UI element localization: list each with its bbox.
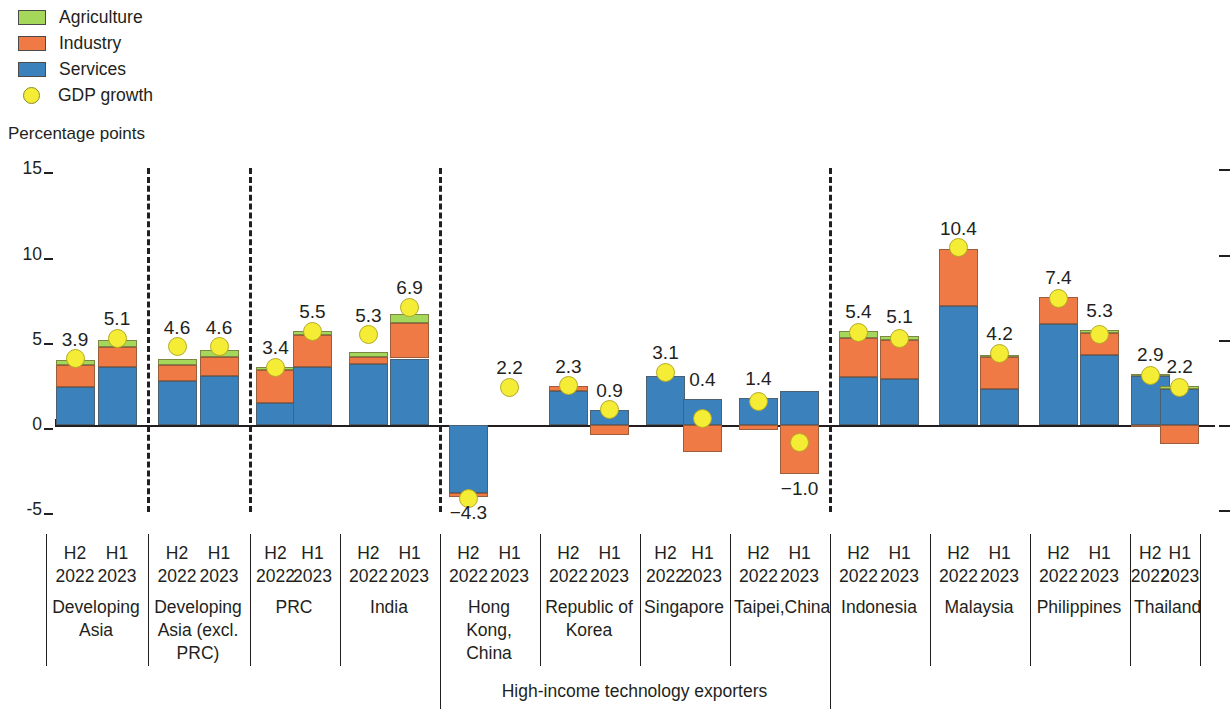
- gdp-growth-value-label: 7.4: [1023, 267, 1093, 289]
- x-axis-period-line: H1: [766, 542, 834, 565]
- x-axis-group-label: Hong Kong,China: [444, 596, 534, 665]
- gdp-growth-value-label: 6.9: [375, 277, 445, 299]
- gdp-growth-value-label: 3.4: [241, 337, 311, 359]
- bar-segment-services: [839, 377, 878, 425]
- bar-segment-industry: [739, 425, 778, 430]
- gdp-growth-value-label: 1.4: [723, 368, 793, 390]
- bar-segment-industry: [683, 425, 722, 452]
- x-axis-period-label: H12023: [83, 542, 151, 588]
- y-axis-tick-label: 15: [2, 158, 42, 179]
- x-axis-group-label-line: Philippines: [1034, 596, 1124, 619]
- bar-segment-services: [449, 425, 488, 493]
- x-axis-group-label: Indonesia: [834, 596, 924, 619]
- x-axis-group-label-line: Malaysia: [934, 596, 1024, 619]
- x-axis-group-label-line: Singapore: [644, 596, 724, 619]
- y-axis-tick-mark-right: [1219, 169, 1230, 171]
- x-axis-period-label: H12023: [866, 542, 934, 588]
- gdp-growth-marker: [790, 433, 809, 452]
- x-axis-period-line: 2023: [1146, 565, 1214, 588]
- bar-segment-services: [390, 359, 429, 425]
- bar-segment-agriculture: [349, 352, 388, 357]
- x-axis-group-label-line: Developing: [50, 596, 142, 619]
- bar-segment-industry: [158, 365, 197, 380]
- x-axis-group-label: DevelopingAsia: [50, 596, 142, 642]
- x-axis-period-line: 2023: [476, 565, 544, 588]
- y-axis-tick-mark: [44, 428, 53, 430]
- bar-segment-industry: [390, 323, 429, 359]
- x-axis-group-label-line: Asia (excl.: [152, 619, 244, 642]
- gdp-growth-marker: [693, 409, 712, 428]
- bar-segment-industry: [56, 365, 95, 387]
- gdp-growth-marker: [949, 238, 968, 257]
- y-axis-tick-mark-right: [1219, 510, 1230, 512]
- x-axis-group-label: Republic ofKorea: [544, 596, 634, 642]
- gdp-growth-value-label: −1.0: [765, 478, 835, 500]
- x-axis-period-label: H12023: [966, 542, 1034, 588]
- x-axis-period-line: H1: [83, 542, 151, 565]
- x-axis-period-line: 2023: [866, 565, 934, 588]
- x-axis-period-line: 2023: [766, 565, 834, 588]
- gdp-growth-value-label: 10.4: [923, 218, 993, 240]
- gdp-growth-value-label: 4.6: [184, 317, 254, 339]
- y-axis-tick-mark-right: [1219, 425, 1230, 427]
- bar-segment-services: [98, 367, 137, 425]
- x-axis-period-line: H1: [476, 542, 544, 565]
- bar-segment-agriculture: [158, 359, 197, 366]
- bar-segment-services: [56, 387, 95, 425]
- group-divider-dashed: [147, 168, 150, 512]
- bar-segment-services: [293, 367, 332, 425]
- x-axis-group-label: PRC: [254, 596, 334, 619]
- x-axis-period-label: H12023: [1146, 542, 1214, 588]
- x-axis-supergroup-label: High-income technology exporters: [440, 681, 829, 702]
- gdp-growth-marker: [168, 337, 187, 356]
- x-axis-period-line: H1: [376, 542, 444, 565]
- x-axis-group-label: India: [344, 596, 434, 619]
- x-axis-period-label: H12023: [376, 542, 444, 588]
- x-axis-group-label-line: China: [444, 642, 534, 665]
- x-axis-group-label: Philippines: [1034, 596, 1124, 619]
- gdp-growth-marker: [210, 337, 229, 356]
- group-divider-dashed: [829, 168, 832, 512]
- gdp-growth-marker: [266, 358, 285, 377]
- bar-segment-services: [158, 381, 197, 425]
- gdp-growth-marker: [749, 392, 768, 411]
- gdp-growth-marker: [500, 378, 519, 397]
- x-axis-group-label-line: Asia: [50, 619, 142, 642]
- group-divider-dashed: [439, 168, 442, 512]
- y-axis-tick-label: 5: [2, 329, 42, 350]
- gdp-growth-marker: [359, 325, 378, 344]
- bar-segment-services: [1080, 355, 1119, 425]
- x-axis-period-line: H1: [1146, 542, 1214, 565]
- bar-segment-industry: [839, 338, 878, 377]
- zero-baseline: [55, 425, 1215, 427]
- x-axis-period-line: H1: [866, 542, 934, 565]
- bar-segment-industry: [349, 357, 388, 364]
- x-axis-period-line: 2023: [966, 565, 1034, 588]
- x-axis-group-label: Taipei,China: [734, 596, 824, 619]
- bar-segment-industry: [200, 357, 239, 376]
- x-axis-period-line: H1: [966, 542, 1034, 565]
- x-axis-group-label: DevelopingAsia (excl.PRC): [152, 596, 244, 665]
- gdp-growth-value-label: 4.2: [965, 323, 1035, 345]
- gdp-growth-value-label: 0.9: [575, 380, 645, 402]
- bar-segment-services: [200, 376, 239, 425]
- gdp-growth-value-label: 5.3: [1065, 300, 1135, 322]
- y-axis-tick-mark: [44, 513, 53, 515]
- x-axis-group-label: Singapore: [644, 596, 724, 619]
- x-axis-group-label-line: India: [344, 596, 434, 619]
- gdp-growth-value-label: 3.1: [631, 342, 701, 364]
- gdp-growth-marker: [66, 349, 85, 368]
- y-axis-tick-mark-right: [1219, 255, 1230, 257]
- x-axis-group-label-line: Republic of: [544, 596, 634, 619]
- y-axis-tick-mark-right: [1219, 340, 1230, 342]
- y-axis-tick-label: 10: [2, 244, 42, 265]
- x-axis-group-label-line: PRC): [152, 642, 244, 665]
- gdp-growth-value-label: 5.3: [333, 305, 403, 327]
- bar-segment-services: [256, 403, 295, 425]
- bar-segment-services: [1039, 324, 1078, 425]
- x-axis-group-label-line: Indonesia: [834, 596, 924, 619]
- x-axis-group-label-line: Korea: [544, 619, 634, 642]
- bar-segment-industry: [1160, 425, 1199, 444]
- x-axis-group-label-line: Thailand: [1134, 596, 1196, 619]
- gdp-growth-marker: [890, 329, 909, 348]
